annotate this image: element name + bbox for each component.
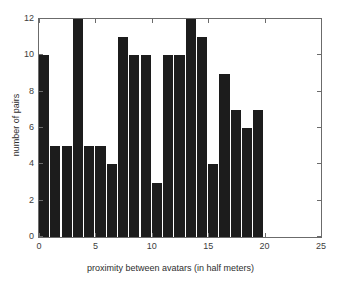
bar xyxy=(152,183,162,238)
x-axis-tick-top xyxy=(265,19,266,23)
x-axis-label: proximity between avatars (in half meter… xyxy=(0,263,341,273)
y-axis-tick-right xyxy=(317,91,321,92)
y-tick-label: 10 xyxy=(14,49,34,59)
x-tick-label: 25 xyxy=(309,241,333,251)
bar xyxy=(62,146,72,237)
y-axis-tick-right xyxy=(317,18,321,19)
x-axis-tick-top xyxy=(39,19,40,23)
bar xyxy=(242,128,252,237)
y-tick-label: 2 xyxy=(14,195,34,205)
y-axis-tick xyxy=(39,54,43,55)
bar xyxy=(208,164,218,237)
bar xyxy=(107,164,117,237)
x-tick-label: 10 xyxy=(140,241,164,251)
x-axis-tick xyxy=(265,233,266,237)
y-axis-tick xyxy=(39,200,43,201)
bar xyxy=(174,55,184,237)
x-tick-label: 20 xyxy=(253,241,277,251)
y-axis-tick xyxy=(39,18,43,19)
bar xyxy=(73,19,83,237)
bar xyxy=(197,37,207,237)
x-axis-tick-top xyxy=(208,19,209,23)
y-axis-tick xyxy=(39,163,43,164)
x-tick-label: 15 xyxy=(196,241,220,251)
x-axis-tick-top xyxy=(152,19,153,23)
y-tick-label: 0 xyxy=(14,231,34,241)
y-tick-label: 12 xyxy=(14,13,34,23)
y-axis-tick-right xyxy=(317,163,321,164)
x-axis-tick xyxy=(208,233,209,237)
bar xyxy=(163,55,173,237)
bar xyxy=(231,110,241,237)
bar xyxy=(118,37,128,237)
bar xyxy=(219,74,229,238)
y-axis-tick-right xyxy=(317,236,321,237)
chart-figure: 024681012 proximity between avatars (in … xyxy=(0,0,341,286)
bar xyxy=(129,55,139,237)
plot-frame xyxy=(38,18,322,238)
x-axis-tick-top xyxy=(95,19,96,23)
x-tick-label: 5 xyxy=(83,241,107,251)
y-axis-label: number of pairs xyxy=(11,65,21,185)
y-axis-tick xyxy=(39,91,43,92)
plot-area xyxy=(39,19,321,237)
x-axis-tick xyxy=(321,233,322,237)
x-axis-tick-top xyxy=(321,19,322,23)
bar xyxy=(141,55,151,237)
bar xyxy=(95,146,105,237)
bar xyxy=(186,19,196,237)
y-axis-tick xyxy=(39,236,43,237)
x-tick-label: 0 xyxy=(27,241,51,251)
bar xyxy=(50,146,60,237)
y-axis-tick-right xyxy=(317,200,321,201)
x-axis-tick xyxy=(152,233,153,237)
y-axis-tick-right xyxy=(317,54,321,55)
bar xyxy=(253,110,263,237)
bar xyxy=(84,146,94,237)
bar xyxy=(39,55,49,237)
x-axis-tick xyxy=(95,233,96,237)
y-axis-tick xyxy=(39,127,43,128)
y-axis-tick-right xyxy=(317,127,321,128)
